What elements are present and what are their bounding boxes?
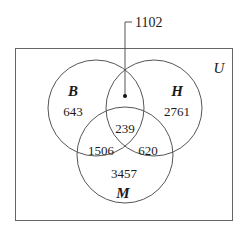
region-count-m-only: 3457 bbox=[111, 166, 138, 181]
callout-leader-line bbox=[125, 22, 132, 95]
set-label-m: M bbox=[115, 185, 130, 201]
callout-label: 1102 bbox=[135, 15, 162, 30]
set-label-h: H bbox=[170, 83, 184, 99]
universe-label: U bbox=[214, 60, 226, 76]
region-count-b-only: 643 bbox=[63, 104, 83, 119]
set-label-b: B bbox=[67, 83, 78, 99]
venn-diagram-canvas: 1102 U B 643 H 2761 239 1506 620 3457 M bbox=[0, 0, 251, 231]
venn-diagram: 1102 U B 643 H 2761 239 1506 620 3457 M bbox=[0, 0, 251, 231]
callout-marker-dot bbox=[123, 94, 127, 98]
region-count-b-m-only: 1506 bbox=[88, 143, 115, 158]
region-count-h-only: 2761 bbox=[164, 104, 190, 119]
region-count-b-h-m: 239 bbox=[115, 121, 135, 136]
region-count-h-m-only: 620 bbox=[138, 143, 158, 158]
